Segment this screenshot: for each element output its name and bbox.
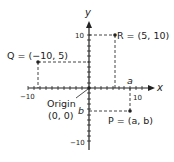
point-p-label: P = (a, b) [108, 115, 153, 126]
y-axis-label: y [84, 7, 92, 18]
y-max-tick-label: 10 [75, 32, 84, 40]
a-label: a [127, 75, 133, 86]
x-axis-arrow-icon [148, 85, 155, 91]
point-p-marker [128, 109, 132, 113]
point-q-label: Q = (−10, 5) [7, 50, 68, 61]
origin-pointer [76, 89, 88, 98]
coordinate-plane: y x 10 −10 −10 10 R = (5, 10) Q = (−10, … [0, 0, 174, 162]
y-min-tick-label: −10 [70, 139, 85, 147]
origin-coords: (0, 0) [48, 110, 74, 121]
origin-label: Origin [47, 98, 76, 109]
x-min-tick-label: −10 [20, 93, 35, 101]
x-axis-label: x [156, 82, 163, 93]
b-label: b [78, 105, 84, 116]
x-max-tick-label: 10 [133, 94, 142, 102]
y-axis-arrow-icon [86, 21, 92, 28]
coordinate-plane-diagram: y x 10 −10 −10 10 R = (5, 10) Q = (−10, … [0, 0, 174, 162]
point-r-label: R = (5, 10) [117, 30, 169, 41]
